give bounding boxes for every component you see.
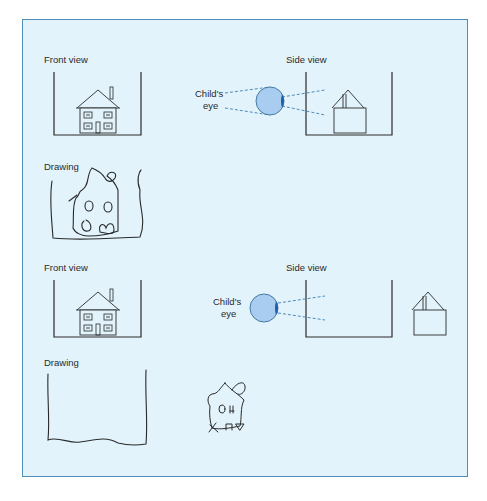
- eye-icon: [256, 87, 284, 115]
- side-view-container: [306, 280, 392, 337]
- eye-label-line1: Child's: [195, 88, 223, 99]
- empty-container-drawing: [48, 370, 147, 445]
- drawing-label: Drawing: [44, 161, 79, 172]
- panel-1: Front view Side view Child's eye Drawing: [44, 54, 392, 239]
- house-front-icon: [76, 87, 120, 133]
- house-front-icon: [76, 289, 120, 335]
- panel-2: Front view Side view Child's eye Drawing: [44, 262, 446, 445]
- child-drawing-inside-container: [51, 168, 143, 239]
- eye-label-line1: Child's: [213, 296, 241, 307]
- perspective-diagram: Front view Side view Child's eye Drawing: [0, 0, 487, 501]
- eye-label-line2: eye: [203, 100, 218, 111]
- side-view-label: Side view: [286, 54, 327, 65]
- house-side-icon-outside: [412, 292, 446, 335]
- front-view-label: Front view: [44, 54, 88, 65]
- eye-label-line2: eye: [221, 308, 236, 319]
- eye-icon: [250, 294, 278, 322]
- side-view-label: Side view: [286, 262, 327, 273]
- house-side-icon: [332, 90, 366, 133]
- sight-lines: [278, 296, 325, 320]
- front-view-label: Front view: [44, 262, 88, 273]
- small-child-drawing: [208, 383, 245, 432]
- drawing-label: Drawing: [44, 357, 79, 368]
